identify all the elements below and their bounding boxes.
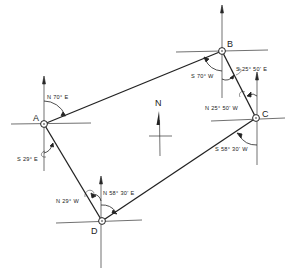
bearing-d-c: N 58° 30' E (103, 190, 134, 196)
bearing-b-a: S 70° W (191, 73, 214, 79)
traverse-diagram: A B C D N 70° E S 29° E S 70° W S 25° 50… (0, 0, 293, 273)
bearing-b-c: S 25° 50' E (236, 66, 267, 72)
line-ab (44, 51, 222, 124)
station-labels: A B C D (33, 39, 269, 236)
bearing-a-b: N 70° E (47, 94, 68, 100)
north-label: N (155, 98, 162, 108)
bearing-c-d: S 58° 30' W (215, 146, 248, 152)
station-d-label: D (91, 226, 98, 236)
station-b-label: B (227, 39, 233, 49)
bearing-c-b: N 25° 50' W (205, 105, 238, 111)
north-arrow-icon (43, 76, 46, 84)
north-arrow-icon (221, 5, 224, 13)
station-a-label: A (33, 113, 39, 123)
bearing-d-a: N 29° W (56, 198, 79, 204)
line-da (44, 124, 102, 221)
north-arrow-icon (100, 176, 103, 184)
north-indicator: N (149, 98, 172, 156)
line-cd (102, 118, 256, 221)
bearing-a-d: S 29° E (17, 156, 38, 162)
station-c-label: C (262, 109, 269, 119)
north-arrow-icon (256, 72, 259, 80)
